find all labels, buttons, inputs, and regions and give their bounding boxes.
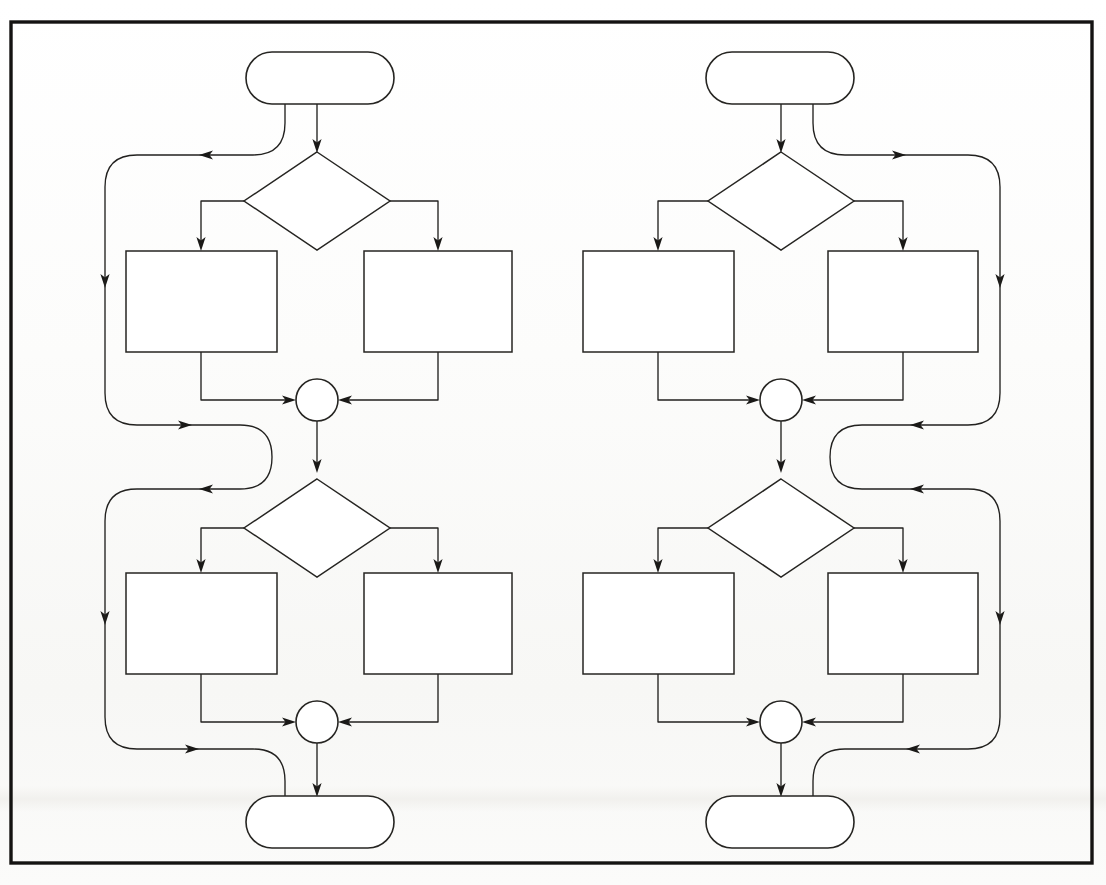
node-process-right-2a[interactable] [583,573,734,674]
edge-right-loop1-outbound [813,104,1000,248]
edge-loop2-outbound [105,489,240,575]
node-merge-left-2[interactable] [296,701,338,743]
right-flow-group [583,52,1005,848]
node-process-right-2b[interactable] [828,573,978,674]
node-process-left-1a[interactable] [126,251,277,352]
edge-right-decision1-left-branch [658,201,708,243]
edge-right-proc2b-to-merge2 [810,674,903,722]
diagram-page [0,0,1106,885]
edge-right-decision1-right-branch [854,201,903,243]
edge-loop1-outbound [105,104,285,248]
edge-decision2-left-branch [201,528,244,565]
node-merge-left-1[interactable] [296,379,338,421]
node-terminal-left-end[interactable] [246,796,394,848]
node-decision-left-2[interactable] [244,479,390,577]
node-process-left-2a[interactable] [126,573,277,674]
edge-decision2-right-branch [390,528,438,565]
edge-proc2a-to-merge2 [201,674,288,722]
edge-right-proc1b-to-merge1 [810,352,903,400]
flowchart-canvas [0,0,1106,885]
node-decision-right-2[interactable] [708,479,854,577]
edge-proc1b-to-merge1 [346,352,438,400]
edge-right-decision2-right-branch [854,528,903,565]
edge-right-proc1a-to-merge1 [658,352,752,400]
node-decision-left-1[interactable] [244,152,390,250]
node-merge-right-2[interactable] [760,701,802,743]
diagram-frame-border [11,22,1092,863]
edge-right-decision2-left-branch [658,528,708,565]
left-flow-group [100,52,512,848]
node-process-right-1b[interactable] [828,251,978,352]
node-terminal-left-start[interactable] [246,52,394,104]
edge-decision1-left-branch [201,201,244,243]
node-process-right-1a[interactable] [583,251,734,352]
edge-proc2b-to-merge2 [346,674,438,722]
node-process-left-2b[interactable] [364,573,512,674]
edge-decision1-right-branch [390,201,438,243]
left-nodes [126,52,512,848]
edge-proc1a-to-merge1 [201,352,288,400]
node-terminal-right-end[interactable] [706,796,854,848]
node-decision-right-1[interactable] [708,152,854,250]
node-terminal-right-start[interactable] [706,52,854,104]
node-merge-right-1[interactable] [760,379,802,421]
edge-right-loop2-outbound [862,489,1000,575]
edge-right-proc2a-to-merge2 [658,674,752,722]
node-process-left-1b[interactable] [364,251,512,352]
